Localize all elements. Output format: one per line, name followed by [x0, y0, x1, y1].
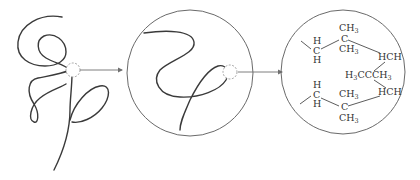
polymer-coil: [18, 16, 109, 170]
selection-circle-coil: [66, 63, 80, 77]
polymer-magnification-diagram: H C H CH3 C CH3 HCH H3CCCH3 HCH H C H CH…: [0, 0, 420, 180]
arrow-2: [238, 70, 283, 75]
magnified-chain: [144, 31, 228, 130]
methyl-group: CH3: [339, 88, 359, 101]
arrow-1: [80, 68, 123, 73]
methyl-group: CH3: [339, 112, 359, 125]
methylene-group-upper: HCH: [378, 51, 402, 62]
atom-h: H: [313, 54, 321, 65]
selection-circle-magnified: [223, 65, 237, 79]
atom-c: C: [341, 101, 348, 112]
methyl-group: CH3: [339, 43, 359, 56]
methylene-group-lower: HCH: [378, 86, 402, 97]
center-group: H3CCCH3: [345, 69, 392, 82]
atom-h: H: [313, 98, 321, 109]
molecular-structure: H C H CH3 C CH3 HCH H3CCCH3 HCH H C H CH…: [300, 22, 402, 125]
